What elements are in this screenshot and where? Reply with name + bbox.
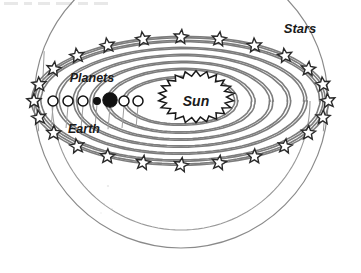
- star-glyph: [278, 48, 292, 62]
- star-glyph: [301, 126, 315, 140]
- label-earth: Earth: [68, 122, 100, 136]
- label-planets: Planets: [70, 71, 115, 85]
- scan-artifact-top-text: [4, 2, 108, 5]
- star-glyph: [278, 139, 292, 153]
- diagram-canvas: Stars Planets Earth Sun: [0, 0, 361, 273]
- heliocentric-solar-system-diagram: Stars Planets Earth Sun: [0, 0, 361, 273]
- planet-dot: [63, 96, 73, 106]
- planet-dot: [48, 96, 58, 106]
- planet-earth: [103, 93, 117, 107]
- planet-dot: [133, 96, 143, 106]
- planet-dot: [94, 98, 101, 105]
- planet-dot: [78, 96, 88, 106]
- planet-dot: [119, 96, 129, 106]
- label-stars: Stars: [284, 21, 317, 36]
- label-sun: Sun: [183, 93, 209, 109]
- star-glyph: [70, 139, 84, 153]
- planets-group: [48, 93, 143, 107]
- star-glyph: [247, 38, 261, 52]
